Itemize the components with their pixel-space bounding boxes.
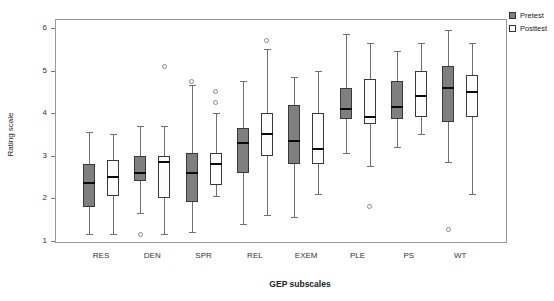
x-tick-label-res: RES [81, 251, 121, 260]
outlier-pretest-DEN-0 [138, 232, 143, 237]
whisker-cap-low-posttest-EXEM [315, 194, 322, 195]
box-pretest-PS [391, 81, 403, 119]
median-pretest-PLE [340, 108, 352, 110]
y-tick-mark-2 [51, 198, 55, 199]
box-pretest-RES [83, 164, 95, 207]
whisker-cap-low-posttest-PLE [367, 166, 374, 167]
whisker-cap-low-pretest-PS [394, 147, 401, 148]
median-pretest-DEN [134, 172, 146, 174]
whisker-cap-low-pretest-PLE [343, 153, 350, 154]
whisker-cap-low-pretest-REL [240, 224, 247, 225]
whisker-cap-low-posttest-RES [110, 234, 117, 235]
legend-item-posttest: Posttest [509, 22, 547, 35]
x-tick-label-ps: PS [389, 251, 429, 260]
whisker-cap-high-pretest-PLE [343, 34, 350, 35]
whisker-cap-low-pretest-DEN [137, 213, 144, 214]
box-pretest-PLE [340, 88, 352, 120]
median-posttest-EXEM [312, 148, 324, 150]
median-pretest-WT [442, 87, 454, 89]
box-pretest-WT [442, 66, 454, 121]
whisker-cap-low-pretest-SPR [189, 232, 196, 233]
whisker-cap-low-pretest-EXEM [291, 217, 298, 218]
whisker-cap-high-pretest-PS [394, 51, 401, 52]
whisker-cap-high-posttest-EXEM [315, 71, 322, 72]
pretest-swatch [509, 12, 516, 19]
median-posttest-PLE [364, 116, 376, 118]
legend: Pretest Posttest [509, 9, 547, 35]
boxplot-figure: Rating scale GEP subscales Pretest Postt… [0, 0, 554, 301]
x-axis-title: GEP subscales [230, 279, 370, 289]
whisker-cap-low-posttest-SPR [213, 196, 220, 197]
box-posttest-SPR [210, 153, 222, 185]
box-pretest-REL [237, 128, 249, 173]
whisker-cap-high-posttest-PS [418, 43, 425, 44]
whisker-cap-high-posttest-DEN [161, 126, 168, 127]
whisker-cap-high-posttest-REL [264, 49, 271, 50]
median-posttest-DEN [158, 161, 170, 163]
x-tick-label-exem: EXEM [286, 251, 326, 260]
y-tick-mark-1 [51, 241, 55, 242]
plot-area [55, 19, 507, 243]
whisker-cap-low-posttest-DEN [161, 234, 168, 235]
box-posttest-RES [107, 160, 119, 196]
whisker-cap-high-posttest-WT [469, 43, 476, 44]
median-posttest-WT [466, 91, 478, 93]
median-posttest-SPR [210, 163, 222, 165]
x-tick-label-spr: SPR [184, 251, 224, 260]
x-tick-label-ple: PLE [338, 251, 378, 260]
y-tick-mark-6 [51, 28, 55, 29]
y-tick-mark-4 [51, 113, 55, 114]
whisker-cap-low-pretest-RES [86, 234, 93, 235]
y-tick-label-2: 2 [31, 193, 47, 202]
legend-label-posttest: Posttest [520, 24, 547, 33]
median-posttest-RES [107, 176, 119, 178]
whisker-cap-high-posttest-RES [110, 134, 117, 135]
box-pretest-DEN [134, 156, 146, 182]
whisker-cap-low-pretest-WT [445, 162, 452, 163]
outlier-posttest-DEN-0 [162, 64, 167, 69]
whisker-cap-high-posttest-SPR [213, 113, 220, 114]
whisker-cap-high-posttest-PLE [367, 43, 374, 44]
median-pretest-RES [83, 182, 95, 184]
whisker-cap-high-pretest-WT [445, 30, 452, 31]
box-posttest-PS [415, 71, 427, 118]
y-tick-label-4: 4 [31, 108, 47, 117]
median-pretest-EXEM [288, 140, 300, 142]
whisker-cap-low-posttest-WT [469, 194, 476, 195]
y-tick-label-1: 1 [31, 236, 47, 245]
outlier-posttest-SPR-1 [213, 100, 218, 105]
median-pretest-SPR [186, 172, 198, 174]
median-posttest-PS [415, 95, 427, 97]
whisker-cap-high-pretest-RES [86, 132, 93, 133]
whisker-cap-high-pretest-EXEM [291, 77, 298, 78]
x-tick-label-wt: WT [440, 251, 480, 260]
median-pretest-REL [237, 142, 249, 144]
whisker-cap-high-pretest-SPR [189, 85, 196, 86]
median-posttest-REL [261, 133, 273, 135]
median-pretest-PS [391, 106, 403, 108]
whisker-posttest-WT [472, 43, 473, 194]
outlier-posttest-PLE-0 [367, 204, 372, 209]
y-tick-label-5: 5 [31, 66, 47, 75]
y-tick-label-3: 3 [31, 151, 47, 160]
box-pretest-EXEM [288, 105, 300, 165]
y-tick-mark-5 [51, 71, 55, 72]
whisker-cap-high-pretest-DEN [137, 126, 144, 127]
legend-label-pretest: Pretest [520, 11, 544, 20]
y-tick-label-6: 6 [31, 23, 47, 32]
whisker-cap-high-pretest-REL [240, 81, 247, 82]
legend-item-pretest: Pretest [509, 9, 547, 22]
x-tick-label-rel: REL [235, 251, 275, 260]
box-posttest-EXEM [312, 113, 324, 164]
y-axis-title: Rating scale [6, 105, 15, 165]
outlier-pretest-SPR-0 [189, 79, 194, 84]
whisker-cap-low-posttest-PS [418, 134, 425, 135]
box-pretest-SPR [186, 153, 198, 202]
whisker-cap-low-posttest-REL [264, 215, 271, 216]
x-tick-label-den: DEN [132, 251, 172, 260]
y-tick-mark-3 [51, 156, 55, 157]
box-posttest-WT [466, 75, 478, 118]
posttest-swatch [509, 25, 516, 32]
